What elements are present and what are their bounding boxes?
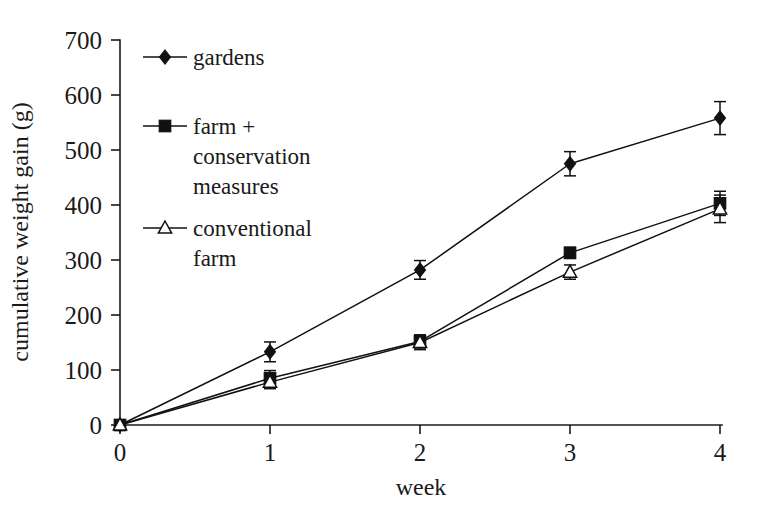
y-tick-label: 0 <box>90 412 103 439</box>
x-tick-label: 2 <box>414 439 427 466</box>
chart-figure: 0100200300400500600700 01234 week cumula… <box>0 0 769 509</box>
marker-filled-square <box>564 247 575 258</box>
y-tick-label: 100 <box>65 357 103 384</box>
y-tick-label: 200 <box>65 302 103 329</box>
legend-entry-label: farm <box>193 246 237 271</box>
legend-entry-label: measures <box>193 174 279 199</box>
y-tick-label: 500 <box>65 137 103 164</box>
legend-entry: measures <box>193 174 279 199</box>
line-chart-canvas: 0100200300400500600700 01234 week cumula… <box>0 0 769 509</box>
marker-filled-diamond <box>565 157 576 171</box>
series-polyline <box>120 209 720 425</box>
x-tick-marks <box>120 425 720 434</box>
x-axis-title: week <box>396 474 447 500</box>
y-axis-title: cumulative weight gain (g) <box>7 102 33 361</box>
legend-entry: farm + <box>143 114 255 139</box>
legend-entry: conservation <box>193 144 311 169</box>
x-tick-label: 4 <box>714 439 727 466</box>
legend-entry: conventional <box>143 216 312 241</box>
legend-entry: farm <box>193 246 237 271</box>
marker-filled-diamond <box>715 111 726 125</box>
legend-entry-label: conventional <box>193 216 312 241</box>
x-tick-label: 3 <box>564 439 577 466</box>
y-tick-labels: 0100200300400500600700 <box>65 27 103 439</box>
marker-filled-diamond <box>160 50 171 64</box>
legend-entry: gardens <box>143 45 265 70</box>
y-tick-label: 600 <box>65 82 103 109</box>
x-tick-label: 0 <box>114 439 127 466</box>
x-tick-label: 1 <box>264 439 277 466</box>
y-tick-label: 400 <box>65 192 103 219</box>
marker-filled-diamond <box>265 345 276 359</box>
chart-legend: gardensfarm +conservationmeasuresconvent… <box>143 45 312 271</box>
marker-open-triangle <box>158 221 171 233</box>
legend-entry-label: conservation <box>193 144 311 169</box>
marker-filled-diamond <box>415 263 426 277</box>
legend-entry-label: gardens <box>193 45 265 70</box>
marker-filled-square <box>159 120 170 131</box>
y-tick-label: 700 <box>65 27 103 54</box>
y-tick-label: 300 <box>65 247 103 274</box>
marker-open-triangle <box>563 265 576 277</box>
legend-entry-label: farm + <box>193 114 255 139</box>
x-tick-labels: 01234 <box>114 439 727 466</box>
y-tick-marks <box>111 40 120 425</box>
